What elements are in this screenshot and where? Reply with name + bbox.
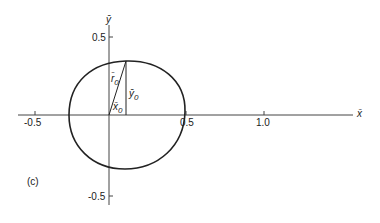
y0-label: ȳ0 — [128, 88, 139, 102]
r0-label: r̄0 — [111, 72, 119, 87]
x-axis-label: x̄ — [356, 108, 363, 119]
y-tick-label: -0.5 — [88, 191, 106, 202]
x-tick-label: 0.5 — [180, 117, 194, 128]
panel-label: (c) — [27, 176, 39, 187]
y-axis-label: ȳ — [105, 14, 112, 25]
x-tick-label: -0.5 — [24, 117, 42, 128]
diagram-canvas: -0.5 0.5 1.0 0.5 -0.5 ȳ x̄ r̄0 ȳ0 x̄0 (c… — [0, 0, 380, 223]
x-tick-label: 1.0 — [256, 117, 270, 128]
y-tick-label: 0.5 — [92, 32, 106, 43]
x0-label: x̄0 — [112, 101, 123, 115]
